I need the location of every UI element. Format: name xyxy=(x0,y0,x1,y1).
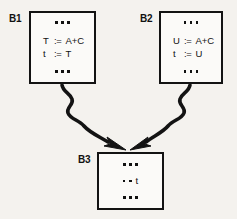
block-b1-line-2-statement: t := T xyxy=(31,49,94,59)
edge-b1-to-b3-path xyxy=(62,85,108,142)
edge-b2-to-b3 xyxy=(130,85,190,150)
statement-lhs: t xyxy=(43,49,54,59)
block-label-b1: B1 xyxy=(9,14,21,24)
block-b2-statements: U := A+C t := U xyxy=(161,36,221,59)
ellipsis-icon xyxy=(123,163,138,166)
statement-rhs: A+C xyxy=(65,36,84,46)
assign-operator: := xyxy=(184,36,191,46)
block-label-b3: B3 xyxy=(78,155,90,165)
statement-rhs: A+C xyxy=(195,36,214,46)
block-b3: t xyxy=(97,152,164,210)
diagram-canvas: B1 T := A+C t := T xyxy=(0,0,237,219)
ellipsis-icon xyxy=(55,21,70,24)
block-b1-statements: T := A+C t := T xyxy=(31,36,94,59)
block-label-b2: B2 xyxy=(140,14,152,24)
assign-operator: := xyxy=(184,49,191,59)
statement-lhs: T xyxy=(43,36,54,46)
block-b1-line-0-ellipsis xyxy=(31,21,94,24)
block-b1-line-1-statement: T := A+C xyxy=(31,36,94,46)
block-b3-body: t xyxy=(99,154,162,208)
block-b2-line-1-statement: U := A+C xyxy=(161,36,221,46)
ellipsis-icon xyxy=(123,180,132,183)
edge-b2-to-b3-arrowhead xyxy=(130,137,151,150)
edge-b1-to-b3 xyxy=(62,85,126,150)
block-b3-line-1-mixed: t xyxy=(99,176,162,186)
block-b2-line-2-statement: t := U xyxy=(161,49,221,59)
block-b2: U := A+C t := U xyxy=(159,11,223,84)
block-b1-body: T := A+C t := T xyxy=(31,13,94,82)
statement-lhs: t xyxy=(173,49,184,59)
block-b2-line-3-ellipsis xyxy=(161,70,221,73)
ellipsis-icon xyxy=(184,21,199,24)
block-b3-identifier: t xyxy=(136,176,139,186)
block-b3-line-0-ellipsis xyxy=(99,163,162,166)
assign-operator: := xyxy=(54,36,61,46)
ellipsis-icon xyxy=(55,70,70,73)
edge-b2-to-b3-path xyxy=(146,85,190,142)
block-b2-body: U := A+C t := U xyxy=(161,13,221,82)
block-b1: T := A+C t := T xyxy=(29,11,96,84)
block-b3-line-2-ellipsis xyxy=(99,196,162,199)
assign-operator: := xyxy=(54,49,61,59)
statement-rhs: T xyxy=(65,49,71,59)
block-b2-line-0-ellipsis xyxy=(161,21,221,24)
ellipsis-icon xyxy=(123,196,138,199)
statement-lhs: U xyxy=(173,36,184,46)
statement-rhs: U xyxy=(195,49,202,59)
edge-b1-to-b3-arrowhead xyxy=(104,137,126,150)
ellipsis-icon xyxy=(184,70,199,73)
block-b1-line-3-ellipsis xyxy=(31,70,94,73)
